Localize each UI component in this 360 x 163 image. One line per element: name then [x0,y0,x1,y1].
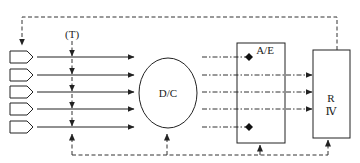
r-box: R Ⅳ [313,50,350,138]
input-tag-4 [10,103,33,115]
timing-label: (T) [65,28,79,41]
ae-box: A/E [237,43,285,143]
input-tag-3 [10,86,33,98]
ae-label: A/E [256,44,274,56]
r-label-line2: Ⅳ [326,105,338,117]
input-arrows [37,57,134,127]
input-sources [10,51,33,133]
input-tag-5 [10,121,33,133]
r-label-line1: R [327,92,335,104]
dc-node: D/C [139,58,197,128]
dc-label: D/C [159,87,177,99]
ae-diamond-bottom [245,123,253,131]
bottom-control-bus [72,134,328,155]
input-tag-2 [10,69,33,81]
ae-diamond-top [245,53,253,61]
input-tag-1 [10,51,33,63]
block-diagram: (T) D/C A/E R Ⅳ [0,0,360,163]
dc-output-lines [202,53,312,131]
